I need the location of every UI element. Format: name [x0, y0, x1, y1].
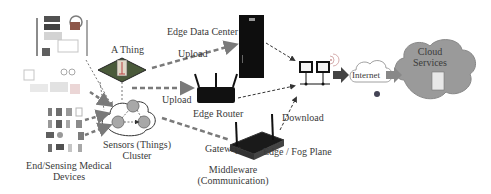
- sensors-line1: Sensors (Things): [92, 139, 182, 150]
- edge-router-label: Edge Router: [193, 108, 243, 119]
- architecture-diagram: A Thing Edge Data Center Upload Upload E…: [0, 0, 491, 194]
- medical-devices-label: End/Sensing Medical Devices: [14, 160, 124, 182]
- medical-line1: End/Sensing Medical: [14, 160, 124, 171]
- fog-to-internet-arrow: [333, 67, 349, 83]
- cloud-line2: Services: [410, 57, 450, 68]
- middleware-line2: (Communication): [188, 175, 278, 186]
- medical-devices-icon: [24, 16, 88, 152]
- cloud-services-label: Cloud Services: [410, 46, 450, 68]
- edge-fog-computers-icon: [300, 54, 339, 86]
- edge-data-center-label: Edge Data Center: [167, 26, 238, 37]
- thing-icon: [98, 58, 146, 82]
- cloud-line1: Cloud: [410, 46, 450, 57]
- upload-label-top: Upload: [178, 48, 207, 59]
- internet-label: Internet: [352, 70, 380, 81]
- medical-line2: Devices: [14, 171, 124, 182]
- thing-label: A Thing: [111, 44, 144, 55]
- gateway-label: Gateway: [205, 143, 241, 154]
- middleware-label: Middleware (Communication): [188, 164, 278, 186]
- edge-router-icon: [195, 73, 237, 103]
- sensors-cluster-label: Sensors (Things) Cluster: [92, 139, 182, 161]
- middleware-line1: Middleware: [188, 164, 278, 175]
- upload-label-bottom: Upload: [162, 94, 191, 105]
- edge-data-center-icon: [239, 15, 264, 78]
- download-label: Download: [282, 112, 324, 123]
- edge-fog-plane-label: Edge / Fog Plane: [263, 146, 332, 157]
- sensor-cluster-icon: [102, 100, 155, 136]
